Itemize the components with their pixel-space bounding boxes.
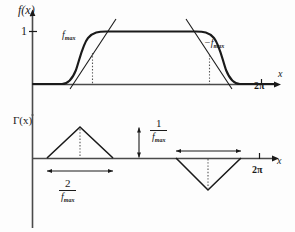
slope-label-fmax-positive: fmax <box>62 30 75 40</box>
top-panel-x-tick-label: 2π <box>254 81 264 91</box>
amplitude-fraction-denominator-subscript: max <box>155 137 166 143</box>
bottom-panel-x-axis-label: x <box>277 156 281 166</box>
top-panel-axes <box>29 10 281 117</box>
figure-graphics <box>0 0 295 232</box>
top-panel-y-tick-label: 1 <box>21 25 27 37</box>
bottom-panel-x-tick-label: 2π <box>252 165 262 175</box>
top-panel-y-axis-label: f(x) <box>18 4 35 16</box>
amplitude-fraction-numerator: 1 <box>150 118 167 130</box>
bottom-panel-y-axis-label: Γ(x) <box>13 115 32 126</box>
slope-label-fmax-negative-base: −f <box>204 37 214 48</box>
base-width-fraction-label: 2 fmax <box>59 178 76 202</box>
figure-container: f(x) 1 fmax −fmax 2π x Γ(x) 1 fmax 2 fma… <box>0 0 295 232</box>
slope-label-fmax-negative-subscript: max <box>214 43 225 49</box>
base-width-fraction-numerator: 2 <box>59 178 76 190</box>
top-panel-x-axis-label: x <box>278 69 282 79</box>
base-width-fraction-denominator-subscript: max <box>64 197 75 203</box>
amplitude-fraction-denominator: fmax <box>150 131 167 142</box>
base-width-fraction-denominator: fmax <box>59 191 76 202</box>
amplitude-fraction-label: 1 fmax <box>150 118 167 142</box>
slope-label-fmax-positive-subscript: max <box>65 35 76 41</box>
slope-label-fmax-negative: −fmax <box>204 38 224 48</box>
